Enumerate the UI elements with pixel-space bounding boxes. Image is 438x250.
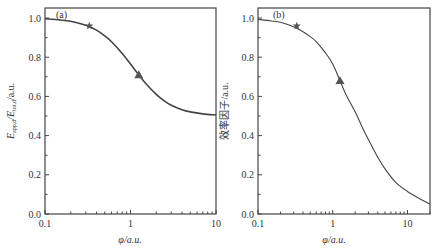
- x-tick-label: 10: [211, 218, 221, 229]
- x-tick-label: 0.1: [252, 218, 265, 229]
- x-tick-label: 0.1: [39, 218, 52, 229]
- panel-a-label: (a): [56, 9, 67, 21]
- panel-b-y-axis: 0.00.20.40.60.81.0: [242, 13, 263, 220]
- y-tick-label: 1.0: [29, 13, 42, 24]
- x-tick-label: 10: [402, 218, 412, 229]
- panel-b: 0.00.20.40.60.81.0 0.1110 (b) φ/a.u. 效率因…: [218, 8, 430, 245]
- panel-b-x-label: φ/a.u.: [322, 234, 345, 245]
- panel-a-y-label: Eapp,d/Etot,d/a.u.: [5, 83, 17, 140]
- y-tick-label: 0.6: [242, 91, 255, 102]
- panel-b-y-label: 效率因子/a.u.: [218, 82, 230, 139]
- chart-figure: 0.00.20.40.60.81.0 0.1110 (a) φ/a.u. Eap…: [0, 0, 438, 250]
- panel-a-y-axis: 0.00.20.40.60.81.0: [29, 13, 50, 220]
- panel-a-x-label: φ/a.u.: [118, 234, 141, 245]
- y-tick-label: 0.4: [242, 130, 255, 141]
- triangle-marker-icon: [335, 76, 344, 84]
- y-tick-label: 0.8: [29, 52, 42, 63]
- y-tick-label: 1.0: [242, 13, 255, 24]
- panel-a-x-axis: 0.1110: [39, 210, 221, 229]
- x-tick-label: 1: [330, 218, 335, 229]
- panel-a-frame: [45, 8, 216, 214]
- panel-b-markers: [293, 22, 345, 84]
- y-tick-label: 0.2: [242, 169, 255, 180]
- panel-b-label: (b): [273, 9, 285, 21]
- y-tick-label: 0.2: [29, 169, 42, 180]
- panel-a-curve: [45, 19, 216, 115]
- y-tick-label: 0.6: [29, 91, 42, 102]
- panel-b-frame: [258, 8, 430, 214]
- x-tick-label: 1: [128, 218, 133, 229]
- panel-b-x-axis: 0.1110: [252, 210, 430, 229]
- y-tick-label: 0.8: [242, 52, 255, 63]
- panel-a: 0.00.20.40.60.81.0 0.1110 (a) φ/a.u. Eap…: [5, 8, 221, 245]
- y-tick-label: 0.4: [29, 130, 42, 141]
- panel-b-curve: [258, 19, 430, 204]
